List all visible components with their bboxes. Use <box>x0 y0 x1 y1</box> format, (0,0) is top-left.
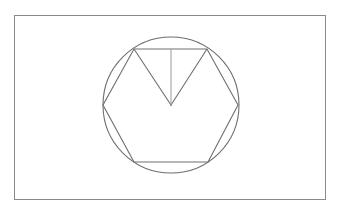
center-point <box>170 104 172 106</box>
diagram-frame <box>15 16 326 200</box>
hexagon-in-circle-diagram <box>0 0 339 208</box>
